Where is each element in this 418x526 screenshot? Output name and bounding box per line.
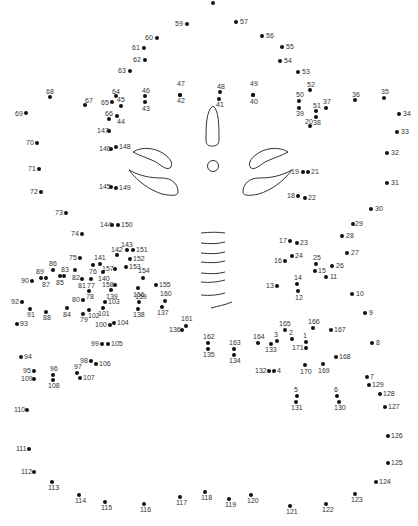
dot-number-label: 150 bbox=[121, 221, 133, 228]
puzzle-dot bbox=[280, 45, 284, 49]
puzzle-dot bbox=[290, 337, 294, 341]
dot-number-label: 90 bbox=[21, 277, 29, 284]
dot-number-label: 97 bbox=[74, 363, 82, 370]
dot-number-label: 7 bbox=[370, 373, 374, 380]
dot-number-label: 141 bbox=[94, 254, 106, 261]
puzzle-dot bbox=[35, 141, 39, 145]
dot-number-label: 9 bbox=[369, 309, 373, 316]
dot-number-label: 151 bbox=[136, 246, 148, 253]
dot-number-label: 2 bbox=[289, 329, 293, 336]
dot-number-label: 10 bbox=[356, 290, 364, 297]
dot-number-label: 71 bbox=[28, 165, 36, 172]
dot-number-label: 148 bbox=[119, 143, 131, 150]
nose-outline bbox=[206, 106, 219, 146]
puzzle-dot bbox=[365, 375, 369, 379]
face-line-art bbox=[0, 0, 418, 526]
puzzle-dot bbox=[58, 274, 62, 278]
dot-number-label: 120 bbox=[247, 497, 259, 504]
puzzle-dot bbox=[314, 262, 318, 266]
dot-number-label: 12 bbox=[295, 294, 303, 301]
puzzle-dot bbox=[107, 117, 111, 121]
puzzle-dot bbox=[128, 69, 132, 73]
dot-number-label: 138 bbox=[133, 311, 145, 318]
trunk-line bbox=[211, 302, 232, 308]
dot-number-label: 53 bbox=[302, 68, 310, 75]
dot-number-label: 60 bbox=[145, 34, 153, 41]
puzzle-dot bbox=[288, 239, 292, 243]
dot-number-label: 80 bbox=[72, 296, 80, 303]
dot-number-label: 85 bbox=[56, 279, 64, 286]
puzzle-dot bbox=[112, 321, 116, 325]
puzzle-dot bbox=[296, 70, 300, 74]
dot-number-label: 124 bbox=[379, 478, 391, 485]
dot-number-label: 119 bbox=[225, 501, 236, 508]
puzzle-dot bbox=[218, 90, 222, 94]
dot-number-label: 16 bbox=[274, 257, 282, 264]
dot-number-label: 92 bbox=[11, 298, 19, 305]
puzzle-dot bbox=[330, 264, 334, 268]
dot-to-dot-puzzle: 5759566055616254635347424841494068644643… bbox=[0, 0, 418, 526]
puzzle-dot bbox=[211, 1, 215, 5]
dot-number-label: 39 bbox=[296, 110, 304, 117]
puzzle-dot bbox=[131, 248, 135, 252]
puzzle-dot bbox=[81, 298, 85, 302]
puzzle-dot bbox=[295, 394, 299, 398]
puzzle-dot bbox=[94, 362, 98, 366]
dot-number-label: 166 bbox=[308, 318, 320, 325]
dot-number-label: 30 bbox=[375, 205, 383, 212]
dot-number-label: 31 bbox=[391, 179, 399, 186]
dot-number-label: 48 bbox=[217, 83, 225, 90]
trunk-line bbox=[201, 293, 225, 295]
puzzle-dot bbox=[296, 289, 300, 293]
trunk-line bbox=[201, 232, 225, 233]
dot-number-label: 94 bbox=[24, 353, 32, 360]
puzzle-dot bbox=[382, 96, 386, 100]
puzzle-dot bbox=[65, 306, 69, 310]
dot-number-label: 142 bbox=[111, 246, 123, 253]
dot-number-label: 27 bbox=[351, 249, 359, 256]
dot-number-label: 149 bbox=[119, 184, 131, 191]
dot-number-label: 169 bbox=[318, 367, 330, 374]
puzzle-dot bbox=[353, 98, 357, 102]
puzzle-dot bbox=[283, 328, 287, 332]
puzzle-dot bbox=[303, 196, 307, 200]
puzzle-dot bbox=[313, 269, 317, 273]
dot-number-label: 45 bbox=[117, 96, 125, 103]
puzzle-dot bbox=[378, 392, 382, 396]
dot-number-label: 42 bbox=[177, 97, 185, 104]
dot-number-label: 40 bbox=[250, 98, 258, 105]
dot-number-label: 103 bbox=[108, 298, 120, 305]
dot-number-label: 121 bbox=[286, 508, 298, 515]
puzzle-dot bbox=[304, 346, 308, 350]
dot-number-label: 20 bbox=[305, 118, 313, 125]
dot-number-label: 11 bbox=[330, 273, 337, 280]
puzzle-dot bbox=[30, 279, 34, 283]
puzzle-dot bbox=[267, 369, 271, 373]
dot-number-label: 167 bbox=[334, 326, 346, 333]
dot-number-label: 84 bbox=[63, 311, 71, 318]
puzzle-dot bbox=[308, 88, 312, 92]
dot-number-label: 55 bbox=[286, 43, 294, 50]
trunk-line bbox=[201, 280, 225, 282]
puzzle-dot bbox=[234, 20, 238, 24]
puzzle-dot bbox=[37, 167, 41, 171]
dot-number-label: 115 bbox=[101, 504, 112, 511]
puzzle-dot bbox=[27, 447, 31, 451]
dot-number-label: 21 bbox=[311, 168, 319, 175]
dot-number-label: 161 bbox=[181, 315, 193, 322]
dot-number-label: 70 bbox=[26, 139, 34, 146]
puzzle-dot bbox=[143, 100, 147, 104]
puzzle-dot bbox=[32, 470, 36, 474]
dot-number-label: 114 bbox=[75, 497, 86, 504]
trunk-line bbox=[201, 242, 225, 244]
dot-number-label: 78 bbox=[86, 293, 94, 300]
dot-number-label: 28 bbox=[346, 232, 354, 239]
puzzle-dot bbox=[100, 342, 104, 346]
dot-number-label: 162 bbox=[203, 333, 215, 340]
dot-number-label: 117 bbox=[176, 499, 187, 506]
dot-number-label: 136 bbox=[169, 326, 181, 333]
puzzle-dot bbox=[334, 355, 338, 359]
puzzle-dot bbox=[24, 111, 28, 115]
puzzle-dot bbox=[386, 434, 390, 438]
dot-number-label: 155 bbox=[159, 281, 171, 288]
